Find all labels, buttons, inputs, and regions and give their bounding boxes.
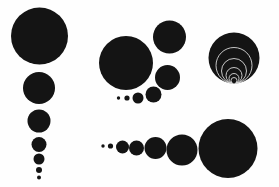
filled-disc bbox=[34, 154, 45, 165]
circle-group-nested-tangent-family bbox=[209, 33, 260, 84]
filled-disc bbox=[28, 110, 51, 133]
filled-disc bbox=[209, 33, 260, 84]
filled-disc bbox=[232, 80, 236, 84]
filled-disc bbox=[99, 36, 153, 90]
filled-disc bbox=[36, 167, 42, 173]
filled-disc bbox=[145, 137, 167, 159]
filled-disc bbox=[116, 141, 129, 154]
filled-disc bbox=[153, 21, 186, 54]
filled-disc bbox=[32, 137, 47, 152]
filled-disc bbox=[146, 87, 162, 103]
filled-disc bbox=[129, 141, 144, 156]
circle-packing-figure bbox=[0, 0, 279, 187]
filled-disc bbox=[108, 143, 113, 148]
filled-disc bbox=[101, 144, 104, 147]
filled-disc bbox=[117, 96, 120, 99]
filled-disc bbox=[167, 135, 198, 166]
filled-disc bbox=[199, 119, 258, 178]
filled-disc bbox=[155, 65, 180, 90]
filled-disc bbox=[11, 8, 68, 65]
filled-disc bbox=[124, 95, 129, 100]
filled-disc bbox=[37, 176, 41, 180]
filled-disc bbox=[23, 72, 55, 104]
filled-disc bbox=[133, 93, 144, 104]
figure-canvas bbox=[0, 0, 279, 187]
